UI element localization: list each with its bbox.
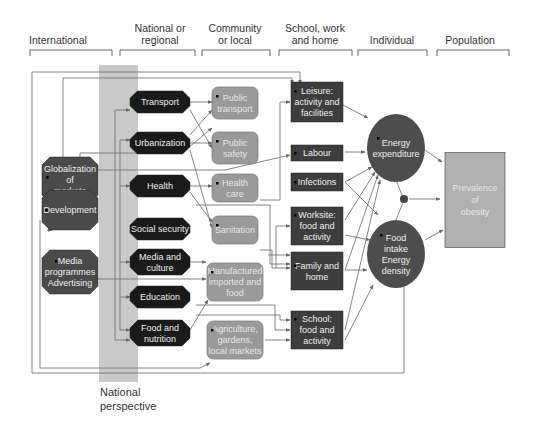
column-header: Community: [208, 22, 262, 34]
node-manufactured-food: Manufacturedimported andfood: [207, 263, 263, 301]
node-label: programmes: [45, 267, 96, 277]
node-label: Urbanization: [135, 138, 186, 148]
node-label: of: [66, 175, 74, 185]
bullet-icon: [294, 181, 297, 184]
node-education: Education: [130, 286, 190, 308]
node-label: gardens,: [217, 335, 252, 345]
bullet-icon: [294, 318, 297, 321]
node-urbanization: Urbanization: [130, 132, 190, 154]
bullet-icon: [294, 90, 297, 93]
node-label: density: [382, 266, 411, 276]
node-label: Globalization: [44, 164, 96, 174]
node-label: School:: [302, 314, 332, 324]
node-label: Education: [140, 292, 180, 302]
node-label: Labour: [303, 148, 331, 158]
node-label: facilities: [301, 108, 334, 118]
node-label: activity and: [294, 97, 339, 107]
node-label: Public: [223, 138, 248, 148]
node-health: Health: [130, 175, 190, 197]
node-social-security: Social security: [130, 218, 190, 240]
bullet-icon: [55, 260, 58, 263]
node-label: Transport: [141, 97, 180, 107]
node-media-culture: Media andculture: [130, 249, 190, 275]
node-label: Leisure:: [301, 86, 333, 96]
header-brackets: [30, 50, 509, 56]
node-label: Sanitation: [215, 225, 255, 235]
node-label: Infections: [298, 177, 337, 187]
node-energy-expenditure: Energyexpenditure: [367, 114, 425, 182]
column-header: School, work: [285, 22, 346, 34]
node-worksite: Worksite:food andactivity: [291, 207, 343, 245]
bullet-icon: [294, 152, 297, 155]
bullet-icon: [211, 271, 214, 274]
node-label: Agriculture,: [212, 324, 258, 334]
node-label: Family and: [295, 261, 339, 271]
bullet-icon: [294, 265, 297, 268]
node-public-transport: Publictransport: [212, 87, 258, 119]
bullet-icon: [211, 329, 214, 332]
node-label: intake: [384, 244, 408, 254]
node-label: Health: [147, 181, 173, 191]
column-header: regional: [141, 34, 178, 46]
column-header: or local: [218, 34, 252, 46]
node-label: nutrition: [144, 334, 176, 344]
node-label: Advertising: [48, 278, 93, 288]
node-label: Social security: [131, 224, 190, 234]
column-header: International: [29, 34, 87, 46]
node-prevalence-obesity: Prevalenceofobesity: [445, 153, 505, 248]
node-agriculture: Agriculture,gardens,local markets: [207, 321, 263, 359]
node-public-safety: Publicsafety: [212, 132, 258, 164]
node-label: transport: [217, 104, 253, 114]
node-health-care: Healthcare: [212, 174, 258, 202]
column-header: Population: [445, 34, 495, 46]
node-label: imported and: [209, 277, 262, 287]
node-label: obesity: [461, 207, 490, 217]
node-label: culture: [146, 263, 173, 273]
node-label: food: [226, 288, 244, 298]
column-header: and home: [292, 34, 339, 46]
bullet-icon: [216, 95, 219, 98]
node-label: care: [226, 189, 244, 199]
node-label: food and: [299, 325, 334, 335]
bullet-icon: [216, 224, 219, 227]
node-label: food and: [299, 221, 334, 231]
bullet-icon: [45, 209, 48, 212]
node-sanitation: Sanitation: [212, 216, 258, 244]
node-label: Worksite:: [298, 210, 335, 220]
node-label: local markets: [208, 346, 262, 356]
node-label: activity: [303, 232, 331, 242]
node-media-advertising: MediaprogrammesAdvertising: [42, 250, 98, 294]
node-label: Food and: [141, 323, 179, 333]
national-perspective-label-line2: perspective: [100, 400, 156, 412]
bullet-icon: [46, 176, 49, 179]
node-label: Food: [386, 233, 407, 243]
node-label: Energy: [382, 255, 411, 265]
node-family-home: Family andhome: [291, 252, 343, 290]
national-perspective-label: National: [100, 386, 140, 398]
node-school: School:food andactivity: [291, 311, 343, 349]
node-label: home: [306, 272, 329, 282]
column-headers: InternationalNational orregionalCommunit…: [29, 22, 495, 46]
node-label: Manufactured: [207, 266, 262, 276]
node-food-intake: FoodintakeEnergydensity: [367, 220, 425, 288]
node-labour: Labour: [291, 145, 343, 161]
bullet-icon: [294, 214, 297, 217]
node-label: Public: [223, 93, 248, 103]
node-label: Media and: [139, 252, 181, 262]
node-transport: Transport: [130, 91, 190, 113]
column-header: Individual: [370, 34, 414, 46]
node-label: Development: [43, 205, 97, 215]
obesity-causation-diagram: InternationalNational orregionalCommunit…: [0, 0, 535, 428]
node-label: Prevalence: [452, 183, 497, 193]
junction-dot: [400, 195, 408, 203]
node-development: Development: [42, 190, 98, 230]
bullet-icon: [377, 137, 380, 140]
node-label: Energy: [382, 138, 411, 148]
node-label: Health: [222, 178, 248, 188]
bullet-icon: [216, 140, 219, 143]
column-header: National or: [135, 22, 186, 34]
node-food-nutrition: Food andnutrition: [130, 320, 190, 346]
node-label: safety: [223, 149, 248, 159]
node-label: expenditure: [372, 149, 419, 159]
node-label: of: [471, 195, 479, 205]
